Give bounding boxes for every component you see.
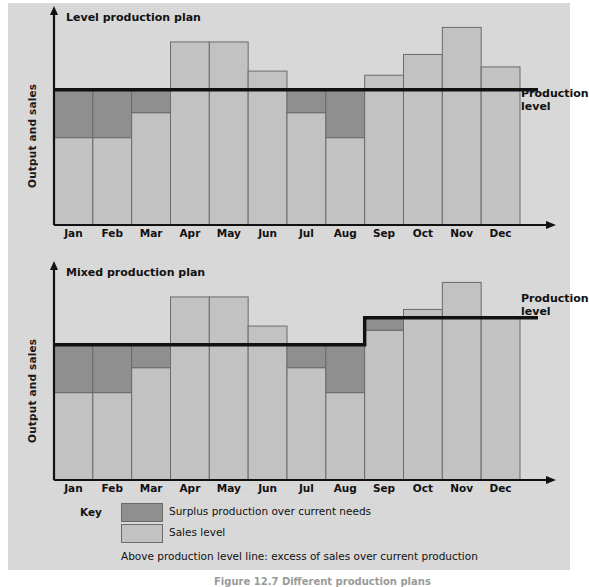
y-axis-arrow (50, 261, 58, 270)
x-tick-sep: Sep (365, 482, 404, 494)
bar-sales-jan (54, 138, 93, 225)
x-tick-jun: Jun (248, 227, 287, 239)
bar-sales-jan (54, 393, 93, 480)
x-axis-month-labels: JanFebMarAprMayJunJulAugSepOctNovDec (54, 482, 520, 494)
x-tick-mar: Mar (132, 482, 171, 494)
bar-sales-jul (287, 368, 326, 480)
x-tick-dec: Dec (481, 227, 520, 239)
bar-sales-oct (404, 309, 443, 480)
bar-sales-mar (132, 368, 171, 480)
bar-surplus-aug (326, 90, 365, 138)
x-tick-jan: Jan (54, 482, 93, 494)
bar-surplus-jan (54, 90, 93, 138)
x-tick-may: May (209, 482, 248, 494)
x-tick-may: May (209, 227, 248, 239)
x-tick-aug: Aug (326, 227, 365, 239)
bar-sales-aug (326, 393, 365, 480)
bar-nov (442, 27, 481, 225)
bar-sales-mar (132, 113, 171, 225)
x-tick-jun: Jun (248, 482, 287, 494)
bar-sales-nov (442, 27, 481, 225)
key-text-sales: Sales level (169, 526, 225, 538)
chart-key: Key Surplus production over current need… (8, 500, 570, 570)
bar-mar (132, 345, 171, 480)
bar-nov (442, 282, 481, 480)
x-tick-apr: Apr (170, 482, 209, 494)
x-tick-sep: Sep (365, 227, 404, 239)
bar-sales-sep (365, 75, 404, 225)
x-tick-jul: Jul (287, 482, 326, 494)
x-tick-mar: Mar (132, 227, 171, 239)
bar-jun (248, 71, 287, 225)
key-swatch-surplus (121, 503, 163, 522)
bar-sales-oct (404, 54, 443, 225)
bar-sales-may (209, 297, 248, 480)
bar-surplus-mar (132, 90, 171, 113)
bar-surplus-jul (287, 345, 326, 368)
bar-oct (404, 54, 443, 225)
bar-sales-jul (287, 113, 326, 225)
bar-sales-sep (365, 330, 404, 480)
chart-level-production-plan: Output and sales Level production plan P… (8, 3, 570, 248)
bar-sales-feb (93, 138, 132, 225)
bar-sales-dec (481, 318, 520, 480)
bar-mar (132, 90, 171, 225)
bar-dec (481, 318, 520, 480)
bar-sales-apr (171, 42, 210, 225)
x-tick-feb: Feb (93, 227, 132, 239)
key-text-surplus: Surplus production over current needs (169, 505, 371, 517)
key-swatch-sales (121, 524, 163, 543)
bar-jan (54, 345, 93, 480)
x-tick-dec: Dec (481, 482, 520, 494)
x-tick-oct: Oct (403, 482, 442, 494)
bar-surplus-feb (93, 345, 132, 393)
bar-jul (287, 90, 326, 225)
x-tick-oct: Oct (403, 227, 442, 239)
bar-feb (93, 90, 132, 225)
bar-surplus-aug (326, 345, 365, 393)
bar-jun (248, 326, 287, 480)
bar-sales-feb (93, 393, 132, 480)
bar-sep (365, 318, 404, 480)
plot-area-bottom (8, 258, 570, 503)
bar-surplus-sep (365, 318, 404, 330)
bar-sales-jun (248, 71, 287, 225)
x-axis-arrow (546, 221, 556, 229)
x-tick-jul: Jul (287, 227, 326, 239)
x-tick-apr: Apr (170, 227, 209, 239)
bar-oct (404, 309, 443, 480)
bar-jul (287, 345, 326, 480)
bar-sales-aug (326, 138, 365, 225)
bar-sales-jun (248, 326, 287, 480)
bar-aug (326, 345, 365, 480)
bar-sales-nov (442, 282, 481, 480)
bar-sales-may (209, 42, 248, 225)
bar-surplus-jan (54, 345, 93, 393)
bar-sales-apr (171, 297, 210, 480)
bar-jan (54, 90, 93, 225)
bar-sep (365, 75, 404, 225)
bar-apr (171, 42, 210, 225)
x-tick-nov: Nov (442, 482, 481, 494)
y-axis-arrow (50, 6, 58, 15)
x-tick-aug: Aug (326, 482, 365, 494)
x-axis-arrow (546, 476, 556, 484)
x-tick-feb: Feb (93, 482, 132, 494)
chart-mixed-production-plan: Output and sales Mixed production plan P… (8, 258, 570, 503)
bar-may (209, 42, 248, 225)
figure-caption: Figure 12.7 Different production plans (214, 576, 431, 587)
plot-area-top (8, 3, 570, 248)
bar-surplus-jul (287, 90, 326, 113)
key-label: Key (80, 506, 102, 518)
x-tick-jan: Jan (54, 227, 93, 239)
bar-surplus-feb (93, 90, 132, 138)
bar-surplus-mar (132, 345, 171, 368)
bar-aug (326, 90, 365, 225)
x-tick-nov: Nov (442, 227, 481, 239)
bar-may (209, 297, 248, 480)
key-note: Above production level line: excess of s… (121, 550, 478, 562)
bar-feb (93, 345, 132, 480)
bar-apr (171, 297, 210, 480)
x-axis-month-labels: JanFebMarAprMayJunJulAugSepOctNovDec (54, 227, 520, 239)
